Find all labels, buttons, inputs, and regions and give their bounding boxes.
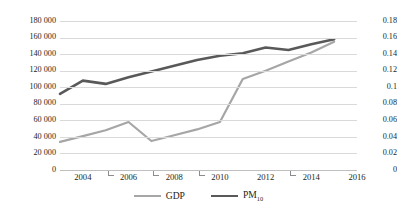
x-axis-minor-tick: [290, 171, 296, 176]
x-axis-minor-tick: [108, 171, 114, 176]
left-axis-tick-20000: 20 000: [0, 149, 56, 157]
legend-swatch-gdp-icon: [134, 195, 161, 197]
right-axis-tick-0-06: 0.06: [361, 116, 397, 124]
left-axis-tick-100000: 100 000: [0, 83, 56, 91]
right-axis-tick-0-16: 0.16: [361, 33, 397, 41]
x-axis-tick-2010: 2010: [211, 173, 228, 182]
legend-swatch-pm10-icon: [211, 195, 238, 197]
legend-item-gdp[interactable]: GDP: [134, 191, 185, 201]
gridline: [60, 54, 357, 55]
left-axis-tick-60000: 60 000: [0, 116, 56, 124]
x-axis-baseline: [60, 170, 357, 171]
right-axis-tick-0-08: 0.08: [361, 99, 397, 107]
left-axis-tick-140000: 140 000: [0, 50, 56, 58]
left-axis-tick-40000: 40 000: [0, 133, 56, 141]
gridline: [60, 137, 357, 138]
gridline: [60, 38, 357, 39]
x-axis-tick-2006: 2006: [120, 173, 137, 182]
right-axis-tick-0-10: 0.1: [361, 83, 397, 91]
gridline: [60, 87, 357, 88]
left-axis-tick-180000: 180 000: [0, 17, 56, 25]
x-axis-tick-2016: 2016: [348, 173, 365, 182]
left-axis-tick-120000: 120 000: [0, 66, 56, 74]
legend-label-pm10-text: PM: [243, 189, 257, 200]
gridline: [60, 21, 357, 22]
right-axis-tick-0-14: 0.14: [361, 50, 397, 58]
legend-label-pm10: PM10: [243, 190, 263, 202]
right-axis-tick-0-04: 0.04: [361, 133, 397, 141]
series-line-gdp: [60, 42, 334, 142]
left-axis-tick-80000: 80 000: [0, 99, 56, 107]
right-axis-tick-0-18: 0.18: [361, 17, 397, 25]
left-axis-tick-160000: 160 000: [0, 33, 56, 41]
legend-label-pm10-subscript: 10: [257, 195, 263, 202]
x-axis-tick-2012: 2012: [257, 173, 274, 182]
series-line-pm10: [60, 39, 334, 94]
x-axis-tick-2008: 2008: [166, 173, 183, 182]
plot-area: [60, 21, 357, 170]
chart-legend: GDP PM10: [0, 190, 397, 202]
legend-label-gdp: GDP: [166, 191, 185, 201]
right-axis-tick-0-02: 0.02: [361, 149, 397, 157]
x-axis-minor-tick: [153, 171, 159, 176]
x-axis-tick-2014: 2014: [303, 173, 320, 182]
gridline: [60, 153, 357, 154]
gridline: [60, 104, 357, 105]
gridline: [60, 120, 357, 121]
left-axis-tick-0: 0: [0, 166, 56, 174]
dual-axis-line-chart: 180 000 160 000 140 000 120 000 100 000 …: [0, 0, 397, 205]
series-lines: [60, 21, 357, 170]
right-axis-tick-0-12: 0.12: [361, 66, 397, 74]
legend-item-pm10[interactable]: PM10: [211, 190, 263, 202]
x-axis-minor-tick: [199, 171, 205, 176]
gridline: [60, 71, 357, 72]
right-axis-tick-0: 0: [361, 166, 397, 174]
x-axis-tick-2004: 2004: [74, 173, 91, 182]
